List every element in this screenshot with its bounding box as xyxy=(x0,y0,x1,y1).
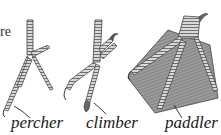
percher-foot-icon xyxy=(3,20,53,118)
paddler-foot-icon xyxy=(128,14,218,119)
percher-label: percher xyxy=(11,114,63,131)
climber-label: climber xyxy=(86,114,138,131)
paddler-label: paddler xyxy=(165,114,218,131)
climber-foot-icon xyxy=(64,20,118,114)
